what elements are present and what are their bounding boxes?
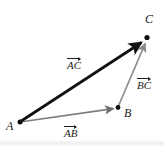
vector-ab-line	[20, 109, 114, 122]
vector-label-ac: AC	[67, 56, 81, 71]
point-label-c: C	[145, 13, 153, 25]
point-label-a: A	[6, 120, 13, 132]
vector-label-ab: AB	[64, 124, 77, 139]
overarrow-ab-icon	[64, 124, 77, 128]
point-c-dot	[144, 35, 149, 40]
vector-label-bc: BC	[137, 76, 151, 91]
overarrow-ac-icon	[67, 56, 81, 60]
vector-label-ac-text: AC	[67, 60, 81, 71]
point-b-dot	[116, 105, 121, 110]
vector-diagram: A B C AC AB BC	[0, 0, 164, 146]
point-label-b: B	[124, 107, 131, 119]
vector-canvas	[0, 0, 164, 146]
vector-label-bc-text: BC	[137, 80, 151, 91]
vector-label-ab-text: AB	[64, 128, 77, 139]
point-a-dot	[18, 120, 23, 125]
overarrow-bc-icon	[137, 76, 151, 80]
